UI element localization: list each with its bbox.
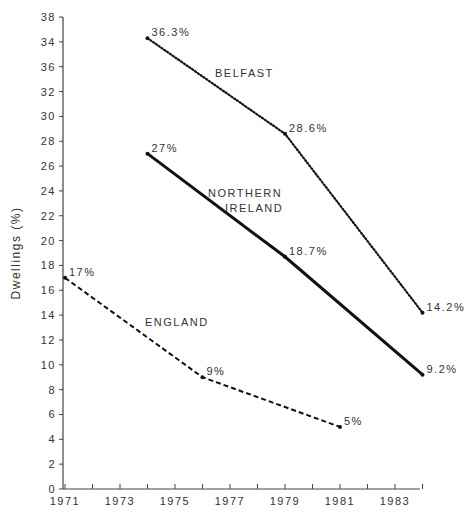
data-point	[421, 311, 425, 315]
data-label: 18.7%	[289, 245, 328, 257]
series-group: 36.3%28.6%14.2%BELFAST27%18.7%9.2%NORTHE…	[63, 26, 465, 429]
data-label: 9.2%	[427, 363, 458, 375]
series-name-label: IRELAND	[225, 202, 283, 214]
data-point	[201, 375, 205, 379]
y-tick-label: 8	[48, 384, 56, 396]
series-england: 17%9%5%ENGLAND	[63, 266, 363, 429]
y-axis-label: Dwellings (%)	[9, 207, 23, 300]
series-belfast: 36.3%28.6%14.2%BELFAST	[146, 26, 466, 314]
x-tick-label: 1975	[160, 495, 190, 507]
y-ticks: 02468101214161820222426283032363438	[41, 11, 63, 495]
y-tick-label: 14	[41, 309, 56, 321]
series-northern-ireland: 27%18.7%9.2%NORTHERNIRELAND	[146, 142, 458, 377]
line-chart: 02468101214161820222426283032363438 1971…	[0, 0, 469, 524]
series-name-label: BELFAST	[215, 67, 274, 79]
y-tick-label: 4	[48, 433, 56, 445]
y-tick-label: 24	[41, 185, 56, 197]
y-tick-label: 32	[41, 86, 56, 98]
series-line	[65, 278, 340, 427]
data-point	[283, 255, 287, 259]
y-tick-label: 10	[41, 359, 56, 371]
data-point	[63, 276, 67, 280]
data-label: 17%	[69, 266, 96, 278]
data-point	[146, 152, 150, 156]
data-point	[146, 36, 150, 40]
data-label: 5%	[344, 415, 363, 427]
x-tick-label: 1981	[325, 495, 355, 507]
series-line	[148, 38, 423, 312]
y-tick-label: 6	[48, 408, 56, 420]
data-label: 9%	[207, 365, 226, 377]
data-label: 27%	[152, 142, 179, 154]
data-label: 36.3%	[152, 26, 191, 38]
y-tick-label: 38	[41, 11, 56, 23]
y-tick-label: 18	[41, 259, 56, 271]
x-tick-label: 1971	[50, 495, 80, 507]
y-tick-label: 12	[41, 334, 56, 346]
y-tick-label: 36	[41, 61, 56, 73]
data-label: 28.6%	[289, 122, 328, 134]
x-tick-label: 1983	[380, 495, 410, 507]
series-name-label: NORTHERN	[208, 187, 282, 199]
series-line	[148, 154, 423, 375]
data-point	[338, 425, 342, 429]
y-tick-label: 16	[41, 284, 56, 296]
y-tick-label: 2	[48, 458, 56, 470]
x-tick-label: 1973	[105, 495, 135, 507]
x-tick-label: 1979	[270, 495, 300, 507]
y-tick-label: 34	[41, 36, 56, 48]
y-tick-label: 30	[41, 110, 56, 122]
x-tick-label: 1977	[215, 495, 245, 507]
y-tick-label: 26	[41, 160, 56, 172]
data-label: 14.2%	[427, 301, 466, 313]
y-tick-label: 0	[48, 483, 56, 495]
y-tick-label: 20	[41, 235, 56, 247]
data-point	[283, 132, 287, 136]
data-point	[421, 373, 425, 377]
series-name-label: ENGLAND	[145, 316, 209, 328]
x-ticks: 1971197319751977197919811983	[50, 484, 423, 507]
y-tick-label: 28	[41, 135, 56, 147]
y-tick-label: 22	[41, 210, 56, 222]
